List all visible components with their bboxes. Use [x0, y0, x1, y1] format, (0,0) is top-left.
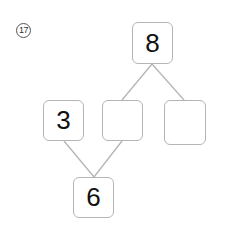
middle-center-box-empty[interactable] [102, 100, 143, 141]
line-middle-to-bottom [94, 141, 122, 177]
line-top-to-middle [122, 64, 152, 100]
top-box: 8 [132, 22, 173, 64]
line-left-to-bottom [64, 141, 94, 177]
bottom-box: 6 [73, 177, 114, 218]
middle-right-box-empty[interactable] [164, 100, 206, 145]
line-top-to-right [152, 64, 184, 100]
middle-left-box: 3 [43, 100, 84, 141]
